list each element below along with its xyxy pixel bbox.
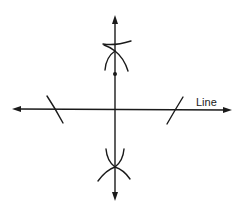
vertical-perpendicular-line [112,15,118,201]
construction-diagram: Line [0,0,247,210]
top-arrowhead-icon [112,15,118,24]
bottom-intersecting-arcs [98,149,130,181]
given-point [113,72,117,76]
line-label: Line [196,96,217,108]
right-arrowhead-icon [223,107,232,113]
left-arrowhead-icon [12,106,21,112]
right-arc-on-line [167,97,183,124]
bottom-arrowhead-icon [112,192,118,201]
top-intersecting-arcs [103,41,131,71]
